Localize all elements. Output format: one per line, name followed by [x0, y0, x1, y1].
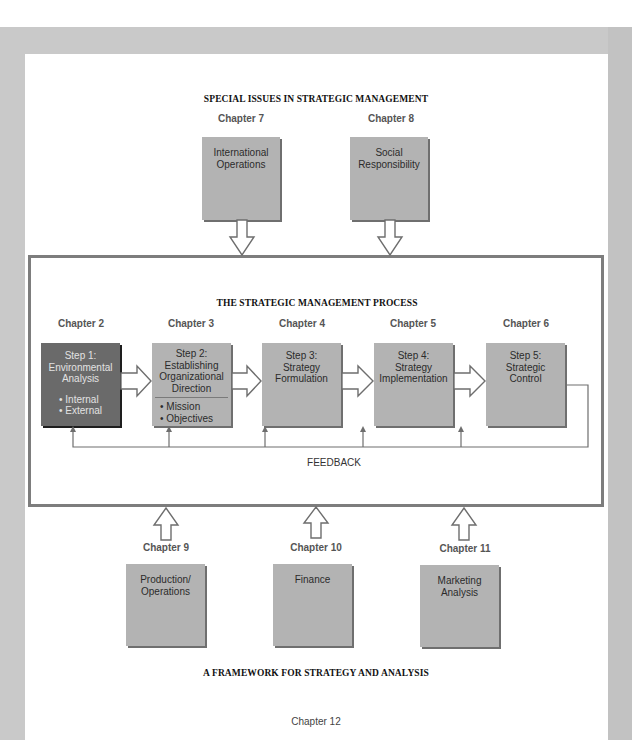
box-line: Responsibility [350, 159, 428, 171]
up-arrow-icon [304, 507, 328, 538]
chapter-label: Chapter 8 [368, 113, 414, 124]
page-frame-right [608, 27, 632, 740]
chapter-label: Chapter 9 [143, 542, 189, 553]
chapter-label: Chapter 12 [291, 716, 340, 727]
box-international-operations: International Operations [202, 137, 280, 220]
feedback-label: FEEDBACK [307, 457, 361, 468]
chapter-label: Chapter 11 [439, 543, 490, 554]
box-line: Finance [273, 574, 352, 586]
box-line: Strategy [374, 362, 453, 374]
box-line: International [202, 147, 280, 159]
bullet-list: • Mission • Objectives [160, 401, 213, 424]
bullet-item: • Internal [59, 394, 102, 406]
chapter-label: Chapter 2 [58, 318, 104, 329]
box-line: Analysis [420, 587, 499, 599]
box-line: Control [486, 373, 565, 385]
chapter-label: Chapter 3 [168, 318, 214, 329]
chapter-label: Chapter 7 [218, 113, 264, 124]
chapter-label: Chapter 5 [390, 318, 436, 329]
box-line: Analysis [41, 373, 120, 385]
bullet-item: • External [59, 405, 102, 417]
box-line: Social [350, 147, 428, 159]
box-line: Marketing [420, 575, 499, 587]
box-line: Step 5: [486, 350, 565, 362]
special-issues-title: SPECIAL ISSUES IN STRATEGIC MANAGEMENT [204, 94, 428, 104]
divider [155, 397, 228, 398]
box-line: Organizational [152, 371, 231, 383]
up-arrow-icon [154, 508, 178, 540]
step-1-environmental-analysis: Step 1: Environmental Analysis • Interna… [41, 343, 120, 426]
box-line: Operations [126, 586, 205, 598]
down-arrow-icon [378, 220, 402, 255]
box-production-operations: Production/ Operations [126, 564, 205, 646]
box-line: Step 2: [152, 348, 231, 360]
box-line: Strategic [486, 362, 565, 374]
process-title: THE STRATEGIC MANAGEMENT PROCESS [216, 298, 417, 308]
box-social-responsibility: Social Responsibility [350, 137, 428, 220]
down-arrow-icon [230, 220, 254, 255]
bullet-list: • Internal • External [59, 394, 102, 417]
step-3-strategy-formulation: Step 3: Strategy Formulation [262, 343, 341, 426]
box-line: Formulation [262, 373, 341, 385]
box-line: Production/ [126, 574, 205, 586]
step-5-strategic-control: Step 5: Strategic Control [486, 343, 565, 426]
box-line: Step 3: [262, 350, 341, 362]
box-marketing-analysis: Marketing Analysis [420, 565, 499, 647]
box-line: Establishing [152, 360, 231, 372]
chapter-label: Chapter 10 [290, 542, 342, 553]
box-line: Direction [152, 383, 231, 395]
chapter-label: Chapter 4 [279, 318, 325, 329]
up-arrow-icon [452, 508, 476, 540]
box-line: Strategy [262, 362, 341, 374]
chapter-label: Chapter 6 [503, 318, 549, 329]
bullet-item: • Objectives [160, 413, 213, 425]
framework-title: A FRAMEWORK FOR STRATEGY AND ANALYSIS [203, 668, 429, 678]
box-line: Step 4: [374, 350, 453, 362]
box-finance: Finance [273, 564, 352, 646]
step-4-strategy-implementation: Step 4: Strategy Implementation [374, 343, 453, 426]
box-line: Environmental [41, 362, 120, 374]
step-2-establishing-direction: Step 2: Establishing Organizational Dire… [152, 343, 231, 426]
bullet-item: • Mission [160, 401, 213, 413]
box-line: Step 1: [41, 350, 120, 362]
box-line: Operations [202, 159, 280, 171]
page-frame-left [0, 27, 25, 740]
box-line: Implementation [374, 373, 453, 385]
page-frame-top [0, 27, 632, 54]
